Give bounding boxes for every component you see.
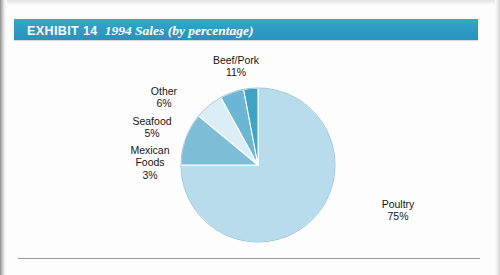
slice-label-beef-pork: Beef/Pork 11% (190, 54, 282, 79)
slice-label-seafood: Seafood 5% (104, 115, 200, 140)
exhibit-page: EXHIBIT 141994 Sales (by percentage) Bee… (0, 0, 500, 275)
exhibit-title-text: EXHIBIT 141994 Sales (by percentage) (14, 22, 254, 38)
slice-label-poultry: Poultry 75% (356, 198, 440, 223)
slice-label-beef-pork-name: Beef/Pork (190, 54, 282, 66)
slice-label-seafood-name: Seafood (104, 115, 200, 127)
pie-chart: Beef/Pork 11% Other 6% Seafood 5% Mexica… (0, 40, 500, 255)
slice-label-other-name: Other (128, 85, 200, 97)
slice-label-mexican-foods-percent: 3% (100, 169, 200, 181)
exhibit-caption: 1994 Sales (by percentage) (105, 23, 254, 38)
slice-label-poultry-percent: 75% (356, 210, 440, 222)
exhibit-title-banner: EXHIBIT 141994 Sales (by percentage) (14, 19, 478, 40)
pie-slice-group (181, 88, 335, 242)
slice-label-beef-pork-percent: 11% (190, 66, 282, 78)
slice-label-other-percent: 6% (128, 97, 200, 109)
slice-label-poultry-name: Poultry (356, 198, 440, 210)
page-bottom-rule (18, 258, 480, 259)
scan-edge-top (0, 0, 500, 5)
exhibit-number-label: EXHIBIT 14 (27, 24, 98, 38)
slice-label-other: Other 6% (128, 85, 200, 110)
slice-label-seafood-percent: 5% (104, 127, 200, 139)
slice-label-mexican-foods: Mexican Foods 3% (100, 144, 200, 181)
slice-label-mexican-foods-name2: Foods (100, 156, 200, 168)
slice-label-mexican-foods-name: Mexican (100, 144, 200, 156)
